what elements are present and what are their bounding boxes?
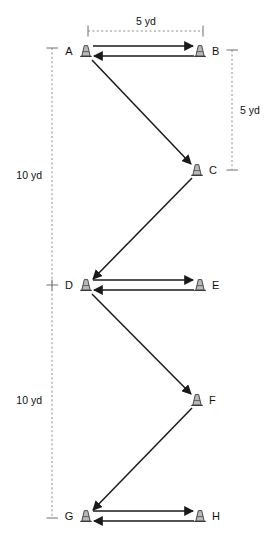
cone-h: H	[195, 510, 220, 522]
path-a-to-c	[92, 60, 191, 164]
diagonal-paths	[92, 60, 192, 510]
cone-label-b: B	[212, 45, 219, 57]
dimension-top-width-label: 5 yd	[136, 15, 156, 27]
cone-icon	[195, 46, 205, 57]
drill-diagram-canvas: 5 yd 5 yd 10 yd 10 yd	[0, 0, 273, 549]
cone-icon	[192, 165, 202, 176]
cone-label-g: G	[65, 510, 74, 522]
cone-label-a: A	[65, 45, 73, 57]
cone-e: E	[195, 279, 220, 291]
cone-a: A	[65, 45, 91, 57]
cone-d: D	[65, 279, 91, 291]
cone-icon	[195, 511, 205, 522]
cone-g: G	[65, 510, 91, 522]
cone-label-h: H	[212, 510, 220, 522]
drill-diagram: 5 yd 5 yd 10 yd 10 yd	[0, 0, 273, 549]
cone-label-c: C	[209, 164, 217, 176]
dimension-top-width: 5 yd	[88, 15, 203, 37]
dimension-left-depth-upper: 10 yd	[16, 48, 58, 291]
cone-label-f: F	[209, 394, 216, 406]
dimension-right-depth-label: 5 yd	[240, 104, 260, 116]
dimension-left-depth-lower-label: 10 yd	[16, 394, 42, 406]
cone-icon	[192, 395, 202, 406]
cone-icon	[195, 280, 205, 291]
path-c-to-d	[93, 178, 192, 279]
cone-b: B	[195, 45, 220, 57]
cone-icon	[81, 46, 91, 57]
cone-icon	[81, 280, 91, 291]
path-f-to-g	[93, 408, 192, 510]
cone-icon	[81, 511, 91, 522]
dimension-lines: 5 yd 5 yd 10 yd 10 yd	[16, 15, 260, 518]
path-d-to-f	[92, 294, 191, 394]
cone-f: F	[192, 394, 216, 406]
shuttle-paths	[93, 46, 194, 521]
cones: A B C D E F	[65, 45, 220, 522]
cone-c: C	[192, 164, 217, 176]
dimension-right-depth: 5 yd	[227, 50, 261, 170]
dimension-left-depth-upper-label: 10 yd	[16, 169, 42, 181]
cone-label-d: D	[65, 279, 73, 291]
dimension-left-depth-lower: 10 yd	[16, 285, 58, 518]
cone-label-e: E	[212, 279, 219, 291]
